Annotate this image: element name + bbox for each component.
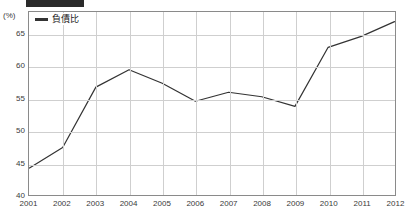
gridline-vertical [130,12,131,195]
gridline-horizontal [29,165,395,166]
x-axis-tick-labels: 2001200220032004200520062007200820092010… [28,199,396,213]
x-tick-label: 2011 [345,199,379,208]
y-tick-label: 65 [1,30,25,38]
x-tick-label: 2002 [45,199,79,208]
gridline-vertical [196,12,197,195]
y-tick-label: 60 [1,62,25,70]
series-line-debt-ratio [29,12,395,195]
x-tick-label: 2009 [278,199,312,208]
gridline-horizontal [29,67,395,68]
x-tick-label: 2006 [178,199,212,208]
gridline-vertical [96,12,97,195]
x-tick-label: 2007 [212,199,246,208]
line-chart-figure: (%) 404550556065 20012002200320042005200… [0,0,408,216]
legend-swatch-icon [35,18,48,21]
series-polyline [29,22,394,168]
y-tick-label: 55 [1,95,25,103]
gridline-vertical [263,12,264,195]
x-tick-label: 2012 [379,199,408,208]
x-tick-label: 2004 [112,199,146,208]
y-tick-label: 45 [1,160,25,168]
gridline-horizontal [29,100,395,101]
gridline-vertical [63,12,64,195]
gridline-vertical [330,12,331,195]
gridline-vertical [163,12,164,195]
plot-area [28,11,396,196]
gridline-vertical [230,12,231,195]
x-tick-label: 2003 [78,199,112,208]
gridline-horizontal [29,132,395,133]
gridline-vertical [296,12,297,195]
gridline-vertical [363,12,364,195]
y-tick-label: 50 [1,127,25,135]
x-tick-label: 2001 [12,199,46,208]
legend-item-label: 負債比 [52,14,79,24]
x-tick-label: 2008 [245,199,279,208]
gridline-horizontal [29,35,395,36]
x-tick-label: 2005 [145,199,179,208]
y-axis-tick-labels: 404550556065 [0,11,25,196]
chart-legend: 負債比 [34,13,82,25]
x-tick-label: 2010 [312,199,346,208]
